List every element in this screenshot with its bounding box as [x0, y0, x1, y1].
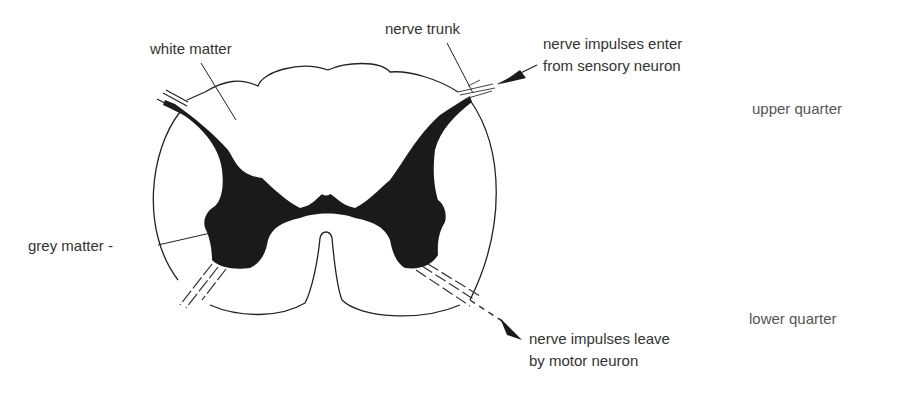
right-dorsal-root	[458, 80, 495, 99]
grey-matter-shape	[163, 96, 472, 269]
grey-matter-pointer	[158, 232, 215, 245]
left-ventral-root	[180, 264, 226, 308]
motor-arrow-shaft	[470, 300, 505, 323]
label-white-matter: white matter	[150, 38, 232, 59]
left-dorsal-root	[157, 90, 188, 113]
spinal-cord-diagram	[0, 0, 898, 397]
central-canal	[322, 191, 330, 196]
label-sensory-line2: from sensory neuron	[543, 55, 681, 76]
label-motor-line2: by motor neuron	[529, 350, 638, 371]
label-motor-line1: nerve impulses leave	[529, 328, 670, 349]
label-sensory-line1: nerve impulses enter	[543, 33, 682, 54]
cord-outline	[153, 64, 496, 316]
label-upper-quarter: upper quarter	[752, 98, 842, 119]
label-nerve-trunk: nerve trunk	[385, 18, 460, 39]
motor-arrow-head	[500, 318, 522, 340]
label-grey-matter: grey matter -	[28, 235, 113, 256]
label-lower-quarter: lower quarter	[749, 308, 837, 329]
